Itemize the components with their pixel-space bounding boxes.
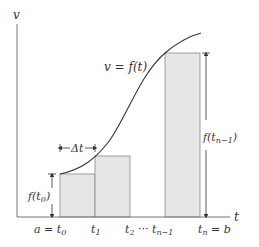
tick-t1: t1 [91, 223, 101, 237]
tick-tn-1: ··· tn−1 [138, 223, 173, 237]
tick-a-t0: a = t0 [34, 223, 66, 237]
y-axis-label: v [13, 8, 20, 22]
f-tn-1-label: f(tn−1) [202, 131, 237, 145]
f-t0-label: f(t0) [27, 190, 50, 204]
bar-1 [60, 174, 95, 217]
tick-t2: t2 [125, 223, 135, 237]
bar-2 [95, 156, 130, 217]
delta-t-label: Δt [70, 142, 84, 155]
tick-tn-b: tn = b [198, 223, 231, 237]
riemann-sum-diagram: v t v = f(t) Δt f(t0) f(tn−1) a = t0 t1 … [0, 0, 259, 247]
x-axis-label: t [234, 210, 239, 224]
bar-n [165, 53, 200, 217]
curve-label: v = f(t) [104, 60, 147, 74]
